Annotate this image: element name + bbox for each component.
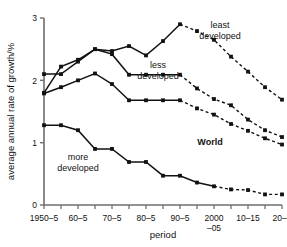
data-point-marker [161, 174, 165, 178]
data-point-marker [76, 128, 80, 132]
data-point-marker [59, 72, 63, 76]
data-point-marker [263, 128, 267, 132]
data-point-marker [212, 113, 216, 117]
less-developed-label: less [150, 60, 167, 70]
y-tick-label: 2 [32, 76, 37, 86]
chart-canvas: 01231950–560–570–580–590–52000–0510–1520… [0, 0, 287, 247]
data-point-marker [246, 118, 250, 122]
data-point-marker [42, 72, 46, 76]
data-point-marker [263, 136, 267, 140]
data-point-marker [110, 147, 114, 151]
world-label: World [197, 137, 222, 147]
data-point-marker [229, 122, 233, 126]
data-point-marker [127, 73, 131, 77]
x-tick-label: 2000 [205, 213, 224, 223]
data-point-marker [212, 97, 216, 101]
x-tick-label: 10–15 [236, 213, 260, 223]
x-tick-label: 1950–5 [30, 213, 59, 223]
data-point-marker [280, 135, 284, 139]
least-developed-label: least [210, 20, 230, 30]
data-point-marker [93, 147, 97, 151]
data-point-marker [263, 85, 267, 89]
x-tick-label: 90–5 [171, 213, 190, 223]
data-point-marker [127, 44, 131, 48]
data-point-marker [42, 92, 46, 96]
data-point-marker [280, 143, 284, 147]
data-point-marker [59, 65, 63, 69]
least-developed-label: developed [199, 31, 241, 41]
y-tick-label: 3 [32, 13, 37, 23]
x-tick-label: 20–5 [273, 213, 287, 223]
data-point-marker [144, 54, 148, 58]
data-point-marker [178, 22, 182, 26]
data-point-marker [76, 60, 80, 64]
data-point-marker [246, 70, 250, 74]
data-point-marker [195, 106, 199, 110]
x-axis-title: period [150, 229, 176, 240]
data-point-marker [178, 98, 182, 102]
data-point-marker [195, 87, 199, 91]
data-point-marker [195, 181, 199, 185]
y-tick-label: 0 [32, 200, 37, 210]
x-tick-label: 70–5 [103, 213, 122, 223]
data-point-marker [229, 103, 233, 107]
data-point-marker [144, 160, 148, 164]
data-point-marker [161, 39, 165, 43]
data-point-marker [76, 78, 80, 82]
data-point-marker [59, 123, 63, 127]
data-point-marker [246, 129, 250, 133]
y-axis-title: average annual rate of growth/% [5, 42, 16, 180]
more-developed-label: more [68, 152, 89, 162]
data-point-marker [246, 188, 250, 192]
data-point-marker [110, 52, 114, 56]
data-point-marker [127, 98, 131, 102]
data-point-marker [229, 55, 233, 59]
y-tick-label: 1 [32, 138, 37, 148]
data-point-marker [59, 85, 63, 89]
x-tick-label: –05 [207, 223, 221, 233]
growth-rate-chart: 01231950–560–570–580–590–52000–0510–1520… [0, 0, 287, 247]
data-point-marker [229, 188, 233, 192]
less-developed-label: developed [137, 71, 179, 81]
data-point-marker [178, 174, 182, 178]
data-point-marker [280, 193, 284, 197]
x-tick-label: 80–5 [137, 213, 156, 223]
x-tick-label: 60–5 [69, 213, 88, 223]
data-point-marker [212, 184, 216, 188]
data-point-marker [161, 98, 165, 102]
data-point-marker [93, 47, 97, 51]
data-point-marker [127, 160, 131, 164]
more-developed-label: developed [57, 163, 99, 173]
data-point-marker [110, 82, 114, 86]
data-point-marker [144, 98, 148, 102]
data-point-marker [280, 98, 284, 102]
data-point-marker [263, 193, 267, 197]
data-point-marker [93, 72, 97, 76]
data-point-marker [42, 123, 46, 127]
series-world [42, 72, 284, 147]
